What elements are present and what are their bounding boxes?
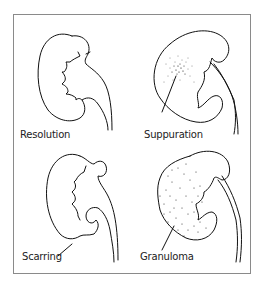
kidney-scarring-drawing [47,154,119,262]
kidney-outcomes-diagram [0,0,263,289]
label-resolution: Resolution [20,129,70,140]
abscess-stipple [164,56,195,83]
kidney-granuloma-drawing [158,151,242,262]
granuloma-stipple [160,164,207,237]
kidney-suppuration-drawing [154,31,238,134]
kidney-resolution-drawing [38,34,112,130]
label-suppuration: Suppuration [144,129,203,140]
label-scarring: Scarring [22,251,62,262]
label-granuloma: Granuloma [140,251,194,262]
